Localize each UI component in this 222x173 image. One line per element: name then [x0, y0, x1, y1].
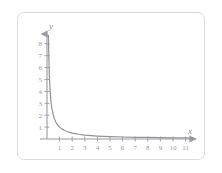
x-tick-label: 1 [58, 144, 62, 152]
x-tick-label: 6 [121, 144, 125, 152]
x-tick-label: 2 [70, 144, 74, 152]
y-tick-label: 7 [39, 52, 43, 60]
y-tick-label: 3 [39, 100, 43, 108]
x-axis-label: x [188, 127, 192, 136]
chart-plot-area: 1 2 3 4 5 6 7 8 [18, 13, 206, 161]
x-tick-label: 3 [83, 144, 87, 152]
hyperbola-curve [48, 35, 193, 138]
figure-page: 1 2 3 4 5 6 7 8 [0, 0, 222, 173]
x-tick-label: 4 [96, 144, 100, 152]
x-axis-tick-labels: 1 2 3 4 5 6 7 8 9 10 11 [58, 144, 190, 152]
x-tick-label: 5 [108, 144, 112, 152]
y-tick-label: 6 [39, 64, 43, 72]
x-tick-label: 8 [146, 144, 150, 152]
x-tick-label: 7 [133, 144, 137, 152]
x-tick-label: 10 [170, 144, 178, 152]
x-tick-label: 9 [159, 144, 163, 152]
y-tick-label: 5 [39, 76, 43, 84]
y-axis: 1 2 3 4 5 6 7 8 [39, 34, 50, 139]
x-axis: 1 2 3 4 5 6 7 8 9 10 11 [40, 137, 196, 153]
y-tick-label: 8 [39, 40, 43, 48]
y-tick-label: 2 [39, 112, 43, 120]
y-axis-label: y [49, 22, 53, 31]
y-tick-label: 4 [39, 88, 43, 96]
x-tick-label: 11 [182, 144, 189, 152]
chart-card: 1 2 3 4 5 6 7 8 [17, 12, 205, 160]
y-tick-label: 1 [39, 124, 43, 132]
y-axis-tick-labels: 1 2 3 4 5 6 7 8 [39, 40, 43, 131]
